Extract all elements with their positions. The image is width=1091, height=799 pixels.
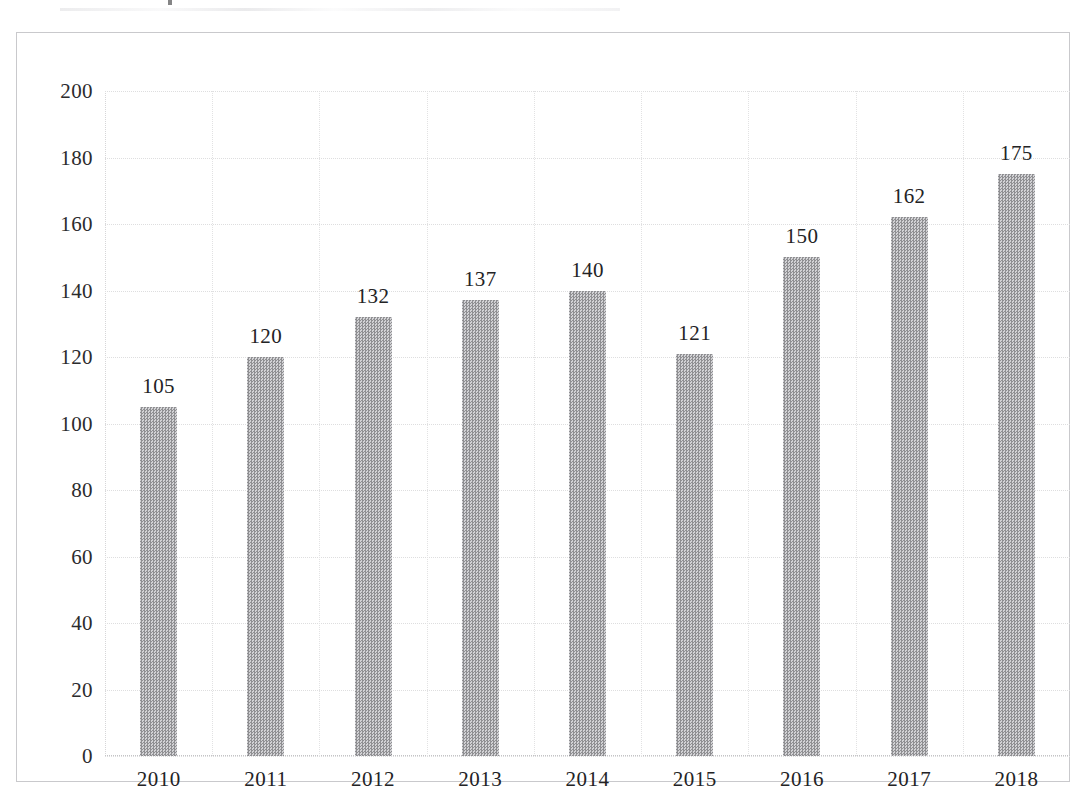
y-axis-tick-label: 160 bbox=[31, 212, 93, 237]
y-axis-tick-labels: 020406080100120140160180200 bbox=[25, 91, 93, 756]
scan-artifact-line bbox=[60, 8, 620, 11]
y-axis-tick-label: 40 bbox=[31, 611, 93, 636]
y-axis-tick-label: 60 bbox=[31, 544, 93, 569]
y-axis-tick-label: 100 bbox=[31, 411, 93, 436]
y-axis-tick-label: 0 bbox=[31, 744, 93, 769]
y-axis-tick-label: 140 bbox=[31, 278, 93, 303]
y-axis-tick-label: 200 bbox=[31, 79, 93, 104]
y-axis-tick-label: 180 bbox=[31, 145, 93, 170]
x-axis-tick-labels: 201020112012201320142015201620172018 bbox=[105, 33, 1070, 781]
y-axis-tick-label: 80 bbox=[31, 478, 93, 503]
y-axis-tick-label: 20 bbox=[31, 677, 93, 702]
scan-artifact-speck bbox=[168, 0, 172, 5]
chart-frame: 020406080100120140160180200 105120132137… bbox=[16, 32, 1070, 782]
x-axis-tick-label: 2018 bbox=[951, 767, 1081, 792]
y-axis-tick-label: 120 bbox=[31, 345, 93, 370]
